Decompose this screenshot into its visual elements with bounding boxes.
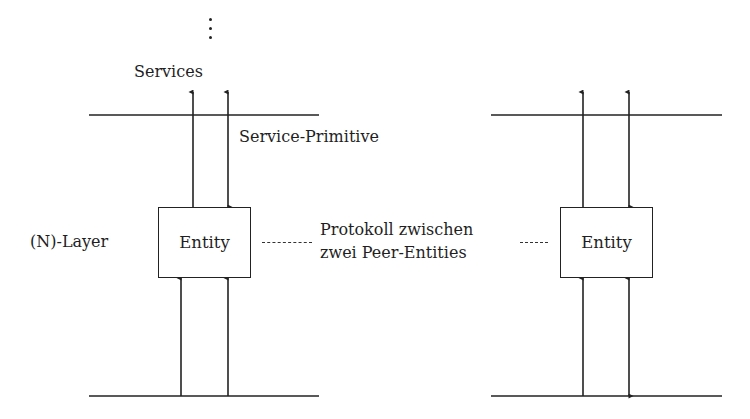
protocol-dashed-line-right (520, 242, 548, 243)
layer-label: (N)-Layer (30, 232, 108, 252)
protocol-label-line2: zwei Peer-Entities (320, 243, 467, 263)
protocol-label-line1: Protokoll zwischen (320, 220, 473, 240)
right-entity-box: Entity (560, 207, 653, 278)
vertical-ellipsis (203, 18, 217, 39)
services-label: Services (134, 62, 203, 82)
left-entity-label: Entity (179, 233, 230, 252)
service-primitive-label: Service-Primitive (239, 127, 379, 147)
protocol-dashed-line-left (262, 242, 312, 243)
left-entity-box: Entity (158, 207, 251, 278)
right-entity-label: Entity (581, 233, 632, 252)
osi-layer-diagram: Services Service-Primitive (N)-Layer Ent… (0, 0, 750, 419)
